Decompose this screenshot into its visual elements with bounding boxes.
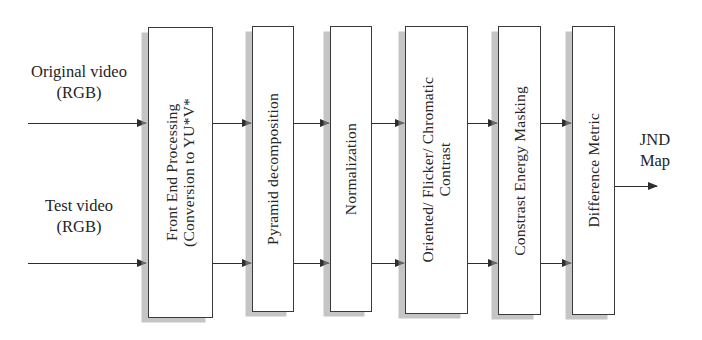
- arrow-contrast-to-masking-bottom: [468, 263, 497, 264]
- arrow-front-end-to-pyramid-bottom: [213, 263, 251, 264]
- stage-label-contrast-energy-masking: Constrast Energy Masking: [511, 84, 528, 258]
- stage-normalization: Normalization: [330, 26, 372, 312]
- arrow-difference-metric-to-jnd-map: [615, 186, 657, 187]
- input-label-test-video: Test video (RGB): [10, 196, 148, 237]
- input-label-original-video: Original video (RGB): [10, 62, 148, 103]
- stage-label-oriented-flicker-chromatic-contrast: Oriented/ Flicker/ Chromatic Contrast: [419, 75, 454, 265]
- output-label-jnd-map: JND Map: [622, 130, 688, 171]
- stage-label-pyramid-decomposition: Pyramid decomposition: [264, 91, 281, 247]
- arrow-masking-to-difference-metric-top: [541, 123, 571, 124]
- stage-label-normalization: Normalization: [342, 121, 359, 217]
- arrow-contrast-to-masking-top: [468, 123, 497, 124]
- stage-pyramid-decomposition: Pyramid decomposition: [252, 26, 294, 312]
- stage-front-end-processing: Front End Processing (Conversion to YU*V…: [148, 27, 213, 318]
- arrow-normalization-to-contrast-bottom: [372, 263, 404, 264]
- stage-oriented-flicker-chromatic-contrast: Oriented/ Flicker/ Chromatic Contrast: [405, 26, 468, 314]
- stage-label-difference-metric: Difference Metric: [585, 111, 602, 230]
- arrow-front-end-to-pyramid-top: [213, 123, 251, 124]
- stage-label-front-end-processing: Front End Processing (Conversion to YU*V…: [163, 96, 198, 249]
- arrow-test-video-to-front-end: [28, 263, 146, 264]
- arrow-pyramid-to-normalization-bottom: [294, 263, 329, 264]
- stage-contrast-energy-masking: Constrast Energy Masking: [498, 26, 541, 315]
- arrow-original-video-to-front-end: [28, 123, 146, 124]
- arrow-masking-to-difference-metric-bottom: [541, 263, 571, 264]
- stage-difference-metric: Difference Metric: [572, 26, 615, 315]
- flowchart-diagram: Original video (RGB) Test video (RGB) Fr…: [0, 0, 702, 340]
- arrow-normalization-to-contrast-top: [372, 123, 404, 124]
- arrow-pyramid-to-normalization-top: [294, 123, 329, 124]
